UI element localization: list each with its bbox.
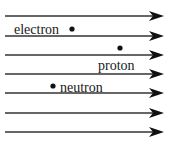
electron-label: electron [14, 23, 59, 37]
field-line-arrow [5, 11, 164, 21]
proton-dot [117, 45, 122, 50]
proton-label: proton [98, 59, 135, 73]
field-line-arrow [5, 69, 164, 79]
neutron-label: neutron [60, 81, 103, 95]
electron-dot [69, 26, 74, 31]
field-line-arrow [5, 127, 164, 137]
neutron-dot [50, 83, 55, 88]
field-line-arrow [5, 108, 164, 118]
field-line-arrow [5, 50, 164, 60]
field-diagram: electron proton neutron [0, 0, 174, 154]
